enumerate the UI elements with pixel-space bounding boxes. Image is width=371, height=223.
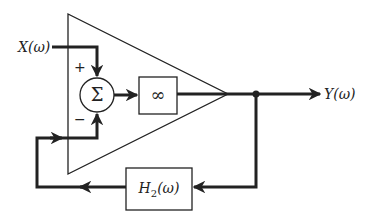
- minus-sign: −: [74, 111, 86, 127]
- sigma-symbol: Σ: [91, 84, 104, 105]
- feedback-to-h2-arrow: [194, 94, 256, 187]
- summing-junction: Σ: [80, 78, 114, 112]
- gain-block: ∞: [139, 77, 177, 114]
- feedback-block: H2(ω): [126, 168, 192, 210]
- h2-arg: (ω): [157, 180, 179, 196]
- output-label: Y(ω): [324, 86, 356, 102]
- h2-main: H: [138, 180, 152, 196]
- block-diagram: X(ω) + − Σ ∞ Y(ω) H2(ω): [0, 0, 371, 223]
- input-label: X(ω): [17, 39, 50, 55]
- plus-sign: +: [74, 59, 86, 75]
- infinity-symbol: ∞: [151, 84, 166, 105]
